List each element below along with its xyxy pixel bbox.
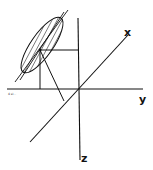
axes [7, 18, 143, 160]
diagram-canvas: x y z 4 sl... [0, 0, 153, 170]
x-axis-label: x [124, 26, 131, 39]
y-axis-label: y [139, 93, 146, 106]
corner-label: 4 sl... [8, 92, 16, 96]
diagonal-projection [40, 50, 64, 101]
point-p [39, 49, 41, 51]
z-axis-label: z [81, 152, 87, 165]
